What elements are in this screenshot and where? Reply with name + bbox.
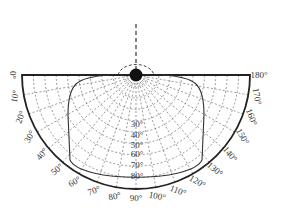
grid-radial [49,75,136,148]
outer-angle-label: 70° [86,184,102,198]
diagram-canvas: 0°10°20°30°40°50°60°70°80°90°100°110°120… [0,0,282,214]
polar-diagram: 0°10°20°30°40°50°60°70°80°90°100°110°120… [0,0,282,214]
outer-angle-label: 20° [14,109,28,125]
inner-ring-label: 80° [131,171,144,181]
light-source-dot [130,69,143,82]
grid-radial [136,75,235,132]
outer-angle-label: 180° [250,70,268,80]
outer-angle-label: 150° [234,127,251,147]
grid-radial [136,75,209,162]
inner-ring-labels: 30°40°50°60°70°80° [131,119,144,181]
inner-ring-label: 40° [131,130,144,140]
outer-angle-label: 30° [22,128,37,144]
grid-radial [79,75,136,174]
outer-angle-label: 170° [251,87,264,106]
outer-angle-label: 160° [244,107,259,127]
outer-angle-label: 90° [130,193,143,203]
outer-angle-label: 120° [188,173,208,190]
outer-angle-label: 130° [205,160,225,179]
grid-radial [37,75,136,132]
grid-radial [136,75,193,174]
inner-ring-label: 70° [131,160,144,170]
grid-radial [63,75,136,162]
outer-angle-label: 10° [9,89,21,104]
grid-arc [90,75,181,121]
outer-angle-label: 110° [168,183,188,198]
outer-angle-label: 60° [67,174,83,189]
inner-ring-label: 30° [131,119,144,129]
outer-angle-label: 80° [108,190,123,202]
grid-radial [136,75,223,148]
inner-ring-label: 60° [131,149,144,159]
outer-angle-label: 0° [8,71,18,80]
outer-angle-label: 100° [148,190,167,203]
outer-angle-label: 140° [221,144,240,164]
grid-radial [136,75,248,95]
grid-radial [24,75,136,95]
